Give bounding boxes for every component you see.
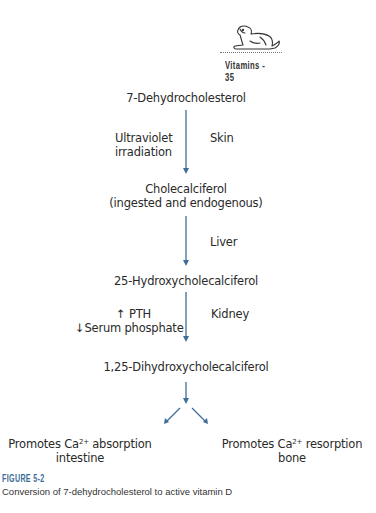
edge-label-kidney: Kidney: [211, 307, 249, 321]
edge-label-pth: ↑ PTH: [116, 307, 151, 321]
arrow-down-icon: [181, 110, 191, 176]
node-7-dehydrocholesterol: 7-Dehydrocholesterol: [86, 91, 286, 105]
node-promotes-resorption: Promotes Ca2+ resorption: [212, 437, 372, 451]
node-absorption-sublabel: intestine: [0, 451, 160, 465]
arrow-down-icon: [181, 216, 191, 268]
arrow-down-icon: [181, 292, 191, 344]
figure-caption: Conversion of 7-dehydrocholesterol to ac…: [2, 486, 232, 497]
edge-label-skin: Skin: [210, 131, 234, 145]
node-promotes-absorption: Promotes Ca2+ absorption: [0, 437, 160, 451]
node-cholecalciferol: Cholecalciferol: [86, 182, 286, 196]
branch-arrows-icon: [160, 382, 212, 430]
edge-label-ultraviolet: Ultraviolet: [115, 131, 173, 145]
edge-label-serum-phosphate: ↓Serum phosphate: [75, 321, 184, 335]
node-cholecalciferol-sublabel: (ingested and endogenous): [86, 196, 286, 210]
edge-label-irradiation: irradiation: [115, 145, 172, 159]
vitamin-d-pathway-diagram: 7-Dehydrocholesterol Ultraviolet irradia…: [0, 0, 376, 440]
edge-label-liver: Liver: [210, 235, 237, 249]
node-resorption-sublabel: bone: [212, 451, 372, 465]
node-25-hydroxycholecalciferol: 25-Hydroxycholecalciferol: [86, 274, 286, 288]
node-1-25-dihydroxycholecalciferol: 1,25-Dihydroxycholecalciferol: [86, 360, 286, 374]
figure-label: FIGURE 5-2: [2, 472, 45, 484]
